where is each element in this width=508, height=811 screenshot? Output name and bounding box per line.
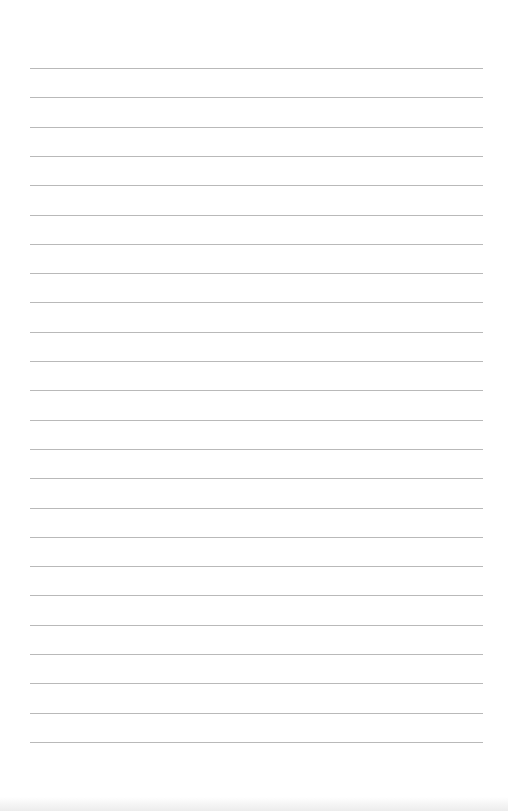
- ruled-line: [30, 156, 483, 157]
- ruled-line: [30, 566, 483, 567]
- ruled-line: [30, 97, 483, 98]
- ruled-line: [30, 68, 483, 69]
- ruled-line: [30, 332, 483, 333]
- ruled-line: [30, 508, 483, 509]
- ruled-line: [30, 244, 483, 245]
- ruled-line: [30, 654, 483, 655]
- ruled-line: [30, 537, 483, 538]
- ruled-line: [30, 478, 483, 479]
- ruled-line: [30, 683, 483, 684]
- ruled-line: [30, 595, 483, 596]
- ruled-line: [30, 361, 483, 362]
- lined-paper-page: [0, 0, 508, 811]
- ruled-line: [30, 625, 483, 626]
- ruled-line: [30, 420, 483, 421]
- ruled-line: [30, 742, 483, 743]
- ruled-line: [30, 127, 483, 128]
- ruled-line: [30, 273, 483, 274]
- ruled-line: [30, 302, 483, 303]
- ruled-line: [30, 713, 483, 714]
- bottom-edge-shadow: [0, 797, 508, 811]
- ruled-line: [30, 449, 483, 450]
- ruled-line: [30, 185, 483, 186]
- ruled-line: [30, 215, 483, 216]
- ruled-line: [30, 390, 483, 391]
